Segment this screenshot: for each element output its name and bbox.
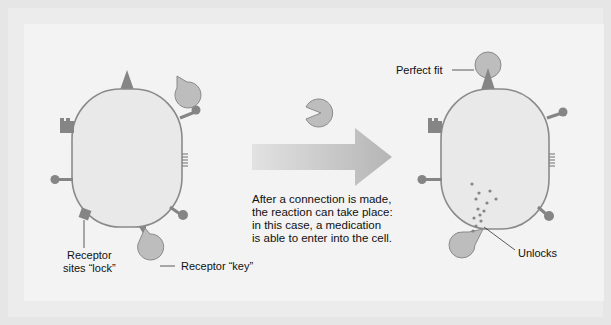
caption-line: the reaction can take place:	[252, 206, 393, 219]
stalk-receptor-right-bottom	[170, 207, 188, 220]
floating-key-top-left	[175, 76, 201, 108]
transition-arrow	[252, 128, 392, 186]
caption-line: is able to enter into the cell.	[252, 232, 393, 245]
comb-receptor-right	[182, 154, 188, 166]
spike-receptor-top	[120, 70, 134, 90]
right-cell	[418, 52, 568, 258]
caption-line: After a connection is made,	[252, 193, 393, 206]
label-line-2: sites “lock”	[63, 262, 116, 275]
receptor-diagram	[0, 0, 611, 325]
stalk-receptor-left	[51, 175, 74, 184]
explanation-caption: After a connection is made, the reaction…	[252, 193, 393, 245]
receptor-key-left	[138, 228, 164, 260]
unlock-key	[449, 229, 483, 258]
receptor-sites-lock-label: Receptor sites “lock”	[63, 249, 116, 275]
caption-line: in this case, a medication	[252, 219, 393, 232]
receptor-key-label: Receptor “key”	[181, 260, 253, 273]
unlocks-label: Unlocks	[518, 247, 557, 260]
notch-receptor-left	[60, 118, 74, 133]
perfect-fit-label: Perfect fit	[396, 64, 442, 77]
floating-key-middle	[306, 99, 333, 127]
label-line-1: Receptor	[63, 249, 116, 262]
